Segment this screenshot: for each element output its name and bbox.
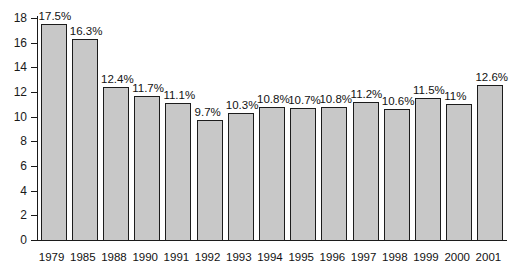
x-axis-category-labels: 1979198519881990199119921993199419951996… (0, 0, 516, 274)
x-axis-category-label: 1996 (317, 252, 348, 264)
bar-chart: 024681012141618 17.5%16.3%12.4%11.7%11.1… (0, 0, 516, 274)
x-axis-category-label: 2001 (473, 252, 504, 264)
x-axis-category-label: 1999 (410, 252, 441, 264)
x-axis-category-label: 1995 (286, 252, 317, 264)
x-axis-category-label: 1997 (348, 252, 379, 264)
x-axis-category-label: 1985 (67, 252, 98, 264)
x-axis-category-label: 1979 (36, 252, 67, 264)
x-axis-category-label: 1993 (223, 252, 254, 264)
x-axis-category-label: 1998 (379, 252, 410, 264)
x-axis-category-label: 1992 (192, 252, 223, 264)
x-axis-category-label: 1991 (161, 252, 192, 264)
x-axis-category-label: 1994 (254, 252, 285, 264)
x-axis-category-label: 1990 (130, 252, 161, 264)
x-axis-category-label: 2000 (442, 252, 473, 264)
x-axis-category-label: 1988 (98, 252, 129, 264)
